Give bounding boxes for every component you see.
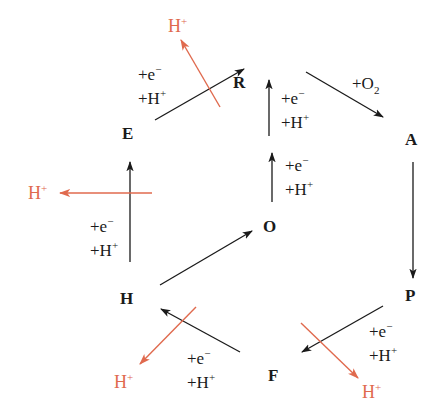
node-p: P bbox=[405, 286, 415, 305]
node-r: R bbox=[233, 73, 246, 92]
label-h-e-proton: +H+ bbox=[90, 239, 118, 260]
label-upper-electron: +e− bbox=[281, 87, 304, 108]
node-o: O bbox=[263, 217, 276, 236]
label-e-r-electron: +e− bbox=[138, 63, 161, 84]
label-lower-proton: +H+ bbox=[285, 178, 313, 199]
proton-label-top: H+ bbox=[168, 15, 187, 36]
arrow-e-to-r bbox=[155, 69, 244, 120]
label-o2: +O2 bbox=[352, 74, 379, 96]
label-upper-proton: +H+ bbox=[281, 111, 309, 132]
catalytic-cycle-diagram: R A P F H E O H+ +e− +H+ +O2 H+ +e− +H+ … bbox=[0, 0, 440, 415]
label-f-h-proton: +H+ bbox=[187, 371, 215, 392]
node-f: F bbox=[268, 366, 278, 385]
node-a: A bbox=[405, 130, 418, 149]
proton-label-bottom-left: H+ bbox=[114, 371, 133, 392]
proton-arrow-e-r bbox=[181, 40, 220, 107]
arrow-h-to-o bbox=[160, 231, 252, 285]
node-h: H bbox=[120, 289, 133, 308]
label-f-h-electron: +e− bbox=[187, 347, 210, 368]
node-e: E bbox=[122, 124, 133, 143]
proton-label-bottom-right: H+ bbox=[362, 381, 381, 402]
label-lower-electron: +e− bbox=[285, 154, 308, 175]
proton-arrow-p-f bbox=[301, 323, 358, 378]
label-p-f-proton: +H+ bbox=[369, 344, 397, 365]
label-p-f-electron: +e− bbox=[369, 320, 392, 341]
proton-label-left: H+ bbox=[28, 182, 47, 203]
label-e-r-proton: +H+ bbox=[138, 87, 166, 108]
label-h-e-electron: +e− bbox=[90, 215, 113, 236]
